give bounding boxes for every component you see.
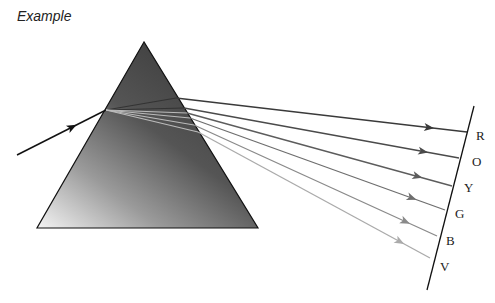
ray-label-O: O [472, 154, 481, 169]
prism-diagram: ROYGBV [0, 0, 495, 303]
ray-label-B: B [446, 233, 455, 248]
ray-label-Y: Y [464, 180, 474, 195]
prism [37, 42, 258, 228]
ray-arrow-icon [394, 236, 405, 244]
ray-label-R: R [476, 128, 485, 143]
screen-line [427, 106, 474, 290]
ray-label-V: V [440, 259, 450, 274]
ray-label-G: G [455, 206, 464, 221]
